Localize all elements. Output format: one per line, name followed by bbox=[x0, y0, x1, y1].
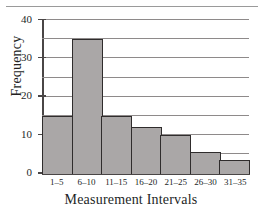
y-axis-title: Frequency bbox=[9, 11, 25, 121]
x-axis-tick-label: 16–20 bbox=[131, 177, 161, 187]
x-axis-tick-label: 21–25 bbox=[161, 177, 191, 187]
y-axis-tick-label: 20 bbox=[21, 89, 32, 101]
histogram-bar bbox=[190, 152, 221, 173]
y-axis-tick-label: 30 bbox=[21, 51, 32, 63]
plot-area: 010203040 bbox=[42, 20, 250, 175]
y-axis-tick-label: 40 bbox=[21, 13, 32, 25]
page-divider-rule bbox=[6, 6, 258, 7]
x-axis-line bbox=[42, 174, 250, 176]
bars-group bbox=[42, 20, 250, 174]
x-axis-tick-label: 6–10 bbox=[72, 177, 102, 187]
histogram-bar bbox=[42, 116, 73, 174]
x-axis-tick-label: 11–15 bbox=[101, 177, 131, 187]
x-axis-tick-label: 31–35 bbox=[220, 177, 250, 187]
x-axis-tick-label: 26–30 bbox=[191, 177, 221, 187]
histogram-bar bbox=[72, 39, 103, 173]
histogram-bar bbox=[131, 127, 162, 173]
histogram-bar bbox=[160, 135, 191, 173]
histogram-figure: Frequency 010203040 1–56–1011–1516–2021–… bbox=[0, 0, 262, 212]
histogram-bar bbox=[101, 116, 132, 174]
x-axis-title: Measurement Intervals bbox=[0, 192, 262, 208]
y-axis-tick-label: 10 bbox=[21, 128, 32, 140]
x-axis-tick-label: 1–5 bbox=[42, 177, 72, 187]
x-axis-ticks-group: 1–56–1011–1516–2021–2526–3031–35 bbox=[42, 177, 250, 187]
histogram-bar bbox=[219, 160, 250, 173]
y-axis-tick-label: 0 bbox=[27, 166, 33, 178]
